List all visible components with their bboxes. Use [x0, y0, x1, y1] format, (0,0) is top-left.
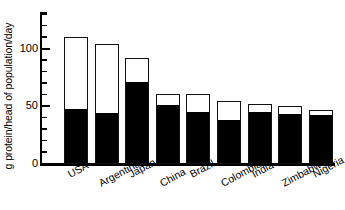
y-tick-minor-80 [42, 71, 47, 73]
y-tick-minor-60 [42, 94, 47, 96]
bar-fill-japan [126, 82, 148, 163]
y-tick-minor-70 [42, 82, 47, 84]
y-tick-major-0 [42, 163, 50, 165]
bar-brazil [186, 94, 210, 164]
y-tick-minor-120 [42, 25, 47, 27]
bar-fill-brazil [187, 112, 209, 163]
y-axis-line [40, 12, 42, 165]
y-tick-minor-30 [42, 128, 47, 130]
bar-argentina [95, 44, 119, 164]
bar-china [156, 94, 180, 164]
y-tick-minor-110 [42, 36, 47, 38]
y-tick-label-0: 0 [12, 158, 38, 169]
y-tick-minor-40 [42, 117, 47, 119]
bar-india [248, 104, 272, 164]
x-axis-category-labels: USAArgentinaJapanChinaBrazilColombiaIndi… [40, 167, 339, 210]
y-tick-label-100: 100 [12, 43, 38, 54]
bar-colombia [217, 101, 241, 164]
y-tick-major-100 [42, 48, 50, 50]
bar-fill-usa [65, 109, 87, 163]
y-tick-major-50 [42, 105, 50, 107]
bar-fill-argentina [96, 113, 118, 163]
y-axis-tick-labels: 100500 [8, 12, 38, 165]
bar-fill-india [249, 112, 271, 163]
x-label-china: China [158, 166, 187, 189]
bar-japan [125, 58, 149, 164]
y-tick-minor-130 [42, 13, 47, 15]
plot-area: 100500 [40, 12, 335, 167]
y-tick-minor-10 [42, 151, 47, 153]
bar-fill-china [157, 105, 179, 163]
bar-usa [64, 37, 88, 164]
bar-fill-colombia [218, 120, 240, 163]
y-tick-minor-90 [42, 59, 47, 61]
bar-zimbabwe [278, 106, 302, 164]
y-tick-label-50: 50 [12, 100, 38, 111]
y-tick-minor-20 [42, 140, 47, 142]
bar-fill-zimbabwe [279, 114, 301, 163]
